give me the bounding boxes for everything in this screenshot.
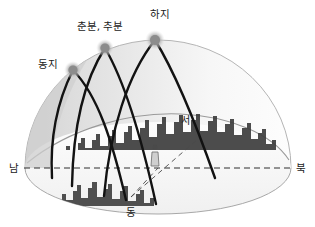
observer-body bbox=[151, 152, 159, 166]
winter-solstice-sun bbox=[68, 65, 77, 74]
label-winter-solstice: 동지 bbox=[38, 58, 58, 70]
label-summer-solstice: 하지 bbox=[150, 8, 170, 20]
celestial-sphere-diagram: 하지 춘분, 추분 동지 남 북 동 서 bbox=[0, 0, 315, 227]
label-equinoxes: 춘분, 추분 bbox=[77, 20, 124, 32]
label-east: 동 bbox=[126, 206, 136, 218]
observer-head bbox=[153, 145, 158, 150]
equinox-sun bbox=[100, 43, 109, 52]
celestial-sphere-figure: 하지 춘분, 추분 동지 남 북 동 서 bbox=[0, 0, 315, 227]
label-west: 서 bbox=[181, 115, 190, 126]
label-north: 북 bbox=[296, 162, 306, 174]
label-south: 남 bbox=[9, 162, 19, 174]
summer-solstice-sun bbox=[150, 35, 160, 45]
